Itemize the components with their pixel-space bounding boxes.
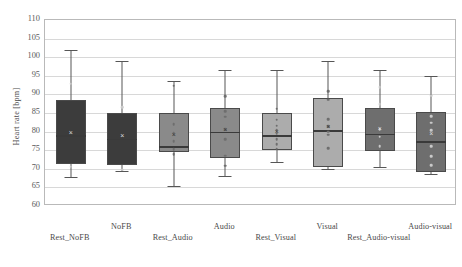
upper-whisker-cap	[219, 70, 232, 71]
lower-whisker-cap	[425, 174, 438, 175]
x-axis-tick-label: Audio-visual	[408, 222, 452, 231]
data-point	[224, 138, 227, 141]
data-point	[378, 86, 381, 89]
data-point	[430, 115, 433, 118]
data-point	[172, 123, 175, 126]
y-axis-tick-label: 90	[14, 89, 40, 97]
lower-whisker-cap	[116, 171, 129, 172]
mean-marker: ×	[429, 130, 433, 137]
data-point	[378, 136, 381, 139]
box-plot-chart: Heart rate [bpm] 11010510095908580757065…	[0, 0, 462, 267]
data-point	[121, 106, 124, 109]
data-point	[327, 90, 330, 93]
data-point	[224, 154, 227, 157]
data-point	[69, 165, 72, 168]
upper-whisker	[225, 70, 226, 108]
x-axis-tick-label: Rest_Visual	[255, 233, 296, 242]
mean-marker: ×	[223, 126, 227, 133]
median-line	[262, 135, 292, 136]
mean-marker: ×	[326, 123, 330, 130]
median-line	[416, 141, 446, 142]
upper-whisker-cap	[322, 61, 335, 62]
data-point	[172, 140, 175, 143]
data-point	[224, 115, 227, 118]
mean-marker: ×	[120, 131, 124, 138]
data-point	[275, 138, 278, 141]
box-plot-group: ×	[251, 20, 303, 204]
y-axis-tick-labels: 1101051009590858075706560	[14, 0, 40, 267]
box-plot-group: ×	[148, 20, 200, 204]
box-plot-group: ×	[406, 20, 458, 204]
upper-whisker-cap	[167, 81, 180, 82]
y-axis-tick-label: 105	[14, 33, 40, 41]
data-point	[121, 168, 124, 171]
x-axis-tick-label: Rest_Audio-visual	[347, 233, 410, 242]
upper-whisker-cap	[116, 61, 129, 62]
upper-whisker-cap	[64, 50, 77, 51]
box-plot-group: ×	[200, 20, 252, 204]
data-point	[430, 95, 433, 98]
x-axis-tick-label: NoFB	[111, 222, 131, 231]
data-point	[224, 165, 227, 168]
lower-whisker	[276, 150, 277, 162]
box-plot-group: ×	[354, 20, 406, 204]
data-point	[327, 133, 330, 136]
plot-area: ××××××××	[44, 19, 456, 205]
y-axis-tick-label: 110	[14, 15, 40, 23]
y-axis-tick-label: 80	[14, 126, 40, 134]
y-axis-tick-label: 65	[14, 182, 40, 190]
lower-whisker	[379, 151, 380, 167]
upper-whisker-cap	[270, 70, 283, 71]
data-point	[430, 155, 433, 158]
data-point	[275, 118, 278, 121]
data-point	[378, 103, 381, 106]
x-axis-tick-label: Rest_Audio	[153, 233, 193, 242]
data-point	[275, 143, 278, 146]
y-axis-tick-label: 70	[14, 164, 40, 172]
data-point	[327, 98, 330, 101]
box-plot-group: ×	[97, 20, 149, 204]
mean-marker: ×	[378, 124, 382, 131]
median-line	[107, 139, 137, 140]
data-point	[327, 147, 330, 150]
data-point	[378, 145, 381, 148]
mean-marker: ×	[275, 127, 279, 134]
data-point	[275, 147, 278, 150]
lower-whisker	[173, 152, 174, 186]
data-point	[275, 107, 278, 110]
y-axis-tick-label: 100	[14, 52, 40, 60]
data-point	[69, 82, 72, 85]
data-point	[224, 95, 227, 98]
box-plot-group: ×	[303, 20, 355, 204]
data-point	[327, 118, 330, 121]
x-axis-tick-label: Audio	[214, 222, 235, 231]
x-axis-tick-label: Visual	[317, 222, 338, 231]
median-line	[56, 135, 86, 136]
lower-whisker-cap	[322, 169, 335, 170]
data-point	[224, 110, 227, 113]
lower-whisker-cap	[270, 162, 283, 163]
lower-whisker-cap	[64, 177, 77, 178]
x-axis-tick-labels: Rest_NoFBNoFBRest_AudioAudioRest_VisualV…	[44, 206, 456, 246]
mean-marker: ×	[69, 128, 73, 135]
data-point	[430, 145, 433, 148]
lower-whisker-cap	[167, 186, 180, 187]
upper-whisker-cap	[373, 70, 386, 71]
y-axis-tick-label: 85	[14, 108, 40, 116]
upper-whisker	[70, 50, 71, 100]
x-axis-tick-label: Rest_NoFB	[50, 233, 90, 242]
mean-marker: ×	[172, 130, 176, 137]
data-point	[430, 121, 433, 124]
y-axis-tick-label: 95	[14, 71, 40, 79]
box-plot-group: ×	[45, 20, 97, 204]
lower-whisker-cap	[373, 167, 386, 168]
y-axis-tick-label: 75	[14, 145, 40, 153]
data-point	[430, 164, 433, 167]
data-point	[172, 148, 175, 151]
data-point	[172, 153, 175, 156]
upper-whisker-cap	[425, 76, 438, 77]
data-point	[172, 85, 175, 88]
lower-whisker-cap	[219, 176, 232, 177]
y-axis-tick-label: 60	[14, 201, 40, 209]
